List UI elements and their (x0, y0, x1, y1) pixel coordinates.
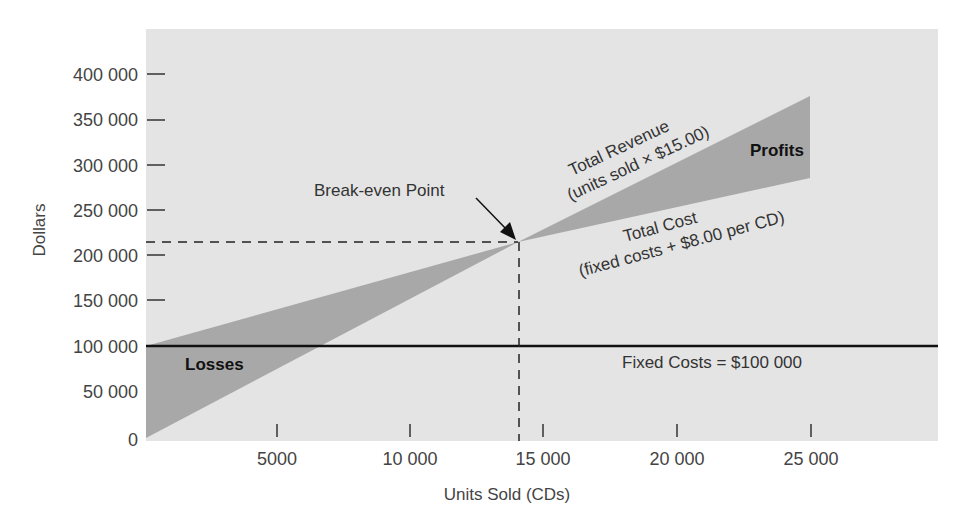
fixed-costs-label: Fixed Costs = $100 000 (622, 353, 802, 372)
x-axis-tick-labels: 5000 10 000 15 000 20 000 25 000 (257, 449, 839, 469)
y-tick-label: 0 (128, 430, 138, 450)
y-tick-label: 300 000 (73, 156, 138, 176)
y-tick-label: 400 000 (73, 65, 138, 85)
profits-label: Profits (750, 141, 804, 160)
y-axis-tick-labels: 400 000 350 000 300 000 250 000 200 000 … (73, 65, 138, 450)
x-axis-title: Units Sold (CDs) (444, 485, 571, 504)
x-tick-label: 15 000 (515, 449, 570, 469)
x-tick-label: 20 000 (649, 449, 704, 469)
y-tick-label: 350 000 (73, 110, 138, 130)
losses-label: Losses (185, 355, 244, 374)
x-tick-label: 5000 (257, 449, 297, 469)
break-even-label: Break-even Point (314, 181, 445, 200)
y-axis-title: Dollars (30, 204, 49, 257)
break-even-chart: 400 000 350 000 300 000 250 000 200 000 … (0, 0, 964, 525)
y-tick-label: 250 000 (73, 201, 138, 221)
y-tick-label: 200 000 (73, 246, 138, 266)
x-tick-label: 25 000 (783, 449, 838, 469)
y-tick-label: 150 000 (73, 291, 138, 311)
y-tick-label: 100 000 (73, 337, 138, 357)
x-tick-label: 10 000 (382, 449, 437, 469)
y-tick-label: 50 000 (83, 382, 138, 402)
